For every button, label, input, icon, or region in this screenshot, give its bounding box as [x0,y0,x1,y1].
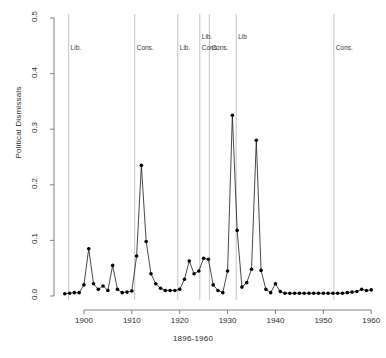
data-point [326,291,330,295]
data-point [116,288,120,292]
y-axis-title: Political Dismissals [14,53,23,193]
data-point [278,290,282,294]
data-point [197,269,201,273]
y-tick-label: 0.1 [30,226,39,252]
data-point [365,289,369,293]
plot-area: Political Dismissals 1896-1960 0.00.10.2… [0,0,386,358]
data-point [341,291,345,295]
data-point [302,291,306,295]
data-point [231,114,235,118]
data-point [173,289,177,293]
party-label: Lib [238,33,247,40]
data-point [283,291,287,295]
data-point [269,291,273,295]
x-tick-label: 1960 [351,316,386,325]
data-point [168,289,172,293]
data-point [149,272,153,276]
data-point [106,289,110,293]
data-point [202,256,206,260]
data-point [350,290,354,294]
data-point [245,281,249,285]
data-point [187,259,191,263]
data-point [92,282,96,286]
y-tick-label: 0.0 [30,282,39,308]
y-tick-label: 0.3 [30,115,39,141]
data-series-line [65,115,371,293]
data-point [87,247,91,251]
data-point [183,278,187,282]
data-point [298,291,302,295]
data-point [68,291,72,295]
data-point [240,285,244,289]
data-point [345,291,349,295]
data-point [312,291,316,295]
x-tick-label: 1910 [112,316,152,325]
party-label: Cons. [336,44,353,51]
data-point [154,282,158,286]
data-point [254,139,258,143]
data-point [250,268,254,272]
party-label: Lib. [71,44,81,51]
data-point [159,286,163,290]
data-point [216,289,220,293]
data-point [293,291,297,295]
data-point [125,290,129,294]
data-point [120,291,124,295]
data-point [369,288,373,292]
data-point [144,240,148,244]
data-point [73,291,77,295]
data-point [235,229,239,233]
data-point [274,282,278,286]
x-tick-label: 1940 [255,316,295,325]
data-point [135,254,139,258]
data-point [221,291,225,295]
data-point [101,284,105,288]
data-point [130,289,134,293]
data-point [82,283,86,287]
party-label: Cons. [137,44,154,51]
line-chart-svg [0,0,386,358]
data-point [226,269,230,273]
data-point [307,291,311,295]
chart-page: Political Dismissals 1896-1960 0.00.10.2… [0,0,386,358]
data-point [140,164,144,168]
data-point [288,291,292,295]
x-axis-title: 1896-1960 [0,334,386,343]
data-point [63,292,67,296]
y-tick-label: 0.2 [30,170,39,196]
x-tick-label: 1920 [160,316,200,325]
party-label: Lib. [180,44,190,51]
data-point [97,288,101,292]
party-label: Cons. [211,44,228,51]
data-point [207,258,211,262]
party-label: Lib. [202,33,212,40]
data-point [322,291,326,295]
data-point [211,283,215,287]
y-tick-label: 0.5 [30,4,39,30]
data-point [355,290,359,294]
data-point [331,291,335,295]
data-point [360,288,364,292]
data-point [192,272,196,276]
data-point [317,291,321,295]
y-tick-label: 0.4 [30,59,39,85]
data-point [178,288,182,292]
data-point [164,289,168,293]
x-tick-label: 1950 [303,316,343,325]
x-tick-label: 1900 [64,316,104,325]
data-point [111,264,115,268]
data-point [77,291,81,295]
x-tick-label: 1930 [208,316,248,325]
data-point [264,288,268,292]
data-point [336,291,340,295]
data-point [259,269,263,273]
